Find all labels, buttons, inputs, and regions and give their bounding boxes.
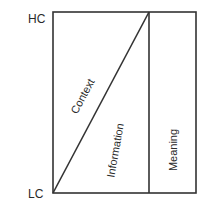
low-context-label: LC	[28, 187, 44, 201]
context-information-meaning-diagram: HC LC Context Information Meaning	[0, 0, 212, 208]
high-context-label: HC	[28, 12, 46, 26]
information-region-label: Information	[104, 122, 125, 178]
context-information-diagonal	[53, 12, 149, 193]
meaning-region-label: Meaning	[167, 129, 179, 171]
context-region-label: Context	[68, 77, 96, 116]
